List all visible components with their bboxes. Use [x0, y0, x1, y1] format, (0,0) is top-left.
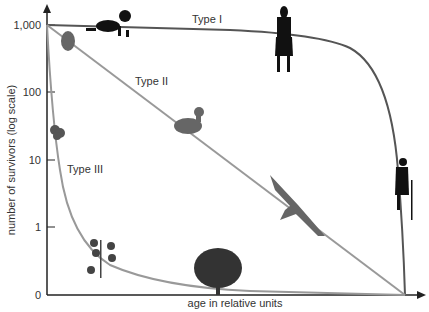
type1-label: Type I: [192, 13, 222, 25]
woman-icon: [275, 6, 293, 72]
tick-0: 0: [35, 289, 41, 301]
seedling-icon: [87, 239, 116, 278]
y-axis-arrow-icon: [43, 4, 51, 13]
crawling-baby-icon: [86, 10, 131, 37]
seed-cluster-icon: [50, 125, 65, 140]
bird-icon: [174, 107, 204, 134]
x-axis-arrow-icon: [417, 291, 426, 299]
x-axis-label: age in relative units: [188, 297, 283, 309]
tick-1000: 1,000: [13, 19, 41, 31]
type2-label: Type II: [135, 75, 168, 87]
y-axis-label: number of survivors (log scale): [5, 85, 17, 235]
tick-1: 1: [35, 221, 41, 233]
egg-icon: [61, 31, 75, 51]
eagle-icon: [270, 175, 325, 236]
tick-100: 100: [23, 86, 41, 98]
elderly-person-icon: [395, 158, 413, 220]
survivorship-chart: 1,000 100 10 1 0 number of survivors (lo…: [0, 0, 429, 312]
y-tick-labels: 1,000 100 10 1 0: [13, 19, 41, 301]
tick-10: 10: [29, 154, 41, 166]
type3-label: Type III: [67, 163, 103, 175]
